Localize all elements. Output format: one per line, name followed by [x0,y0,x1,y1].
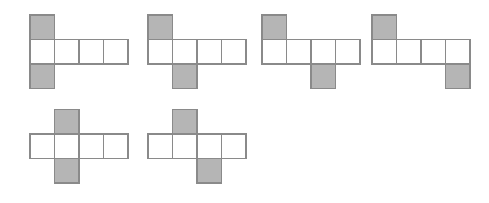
net-cell-top [55,110,80,135]
net-cell-row-0 [262,40,287,65]
net-cell-row-3 [336,40,361,65]
net-cell-row-0 [30,40,55,65]
net-cell-bottom [311,64,336,89]
net-cell-bottom [30,64,55,89]
net-cell-row-1 [397,40,422,65]
net-cell-row-1 [55,134,80,159]
net-cell-row-2 [421,40,446,65]
net-cell-row-3 [222,40,247,65]
cube-nets-figure [0,0,489,203]
net-cell-bottom [197,159,222,184]
net-cell-row-2 [311,40,336,65]
net-cell-row-1 [287,40,312,65]
net-cell-row-0 [30,134,55,159]
net-cell-row-0 [148,134,173,159]
net-cell-row-2 [79,40,104,65]
net-cell-row-2 [79,134,104,159]
net-cell-row-0 [148,40,173,65]
net-cell-top [372,15,397,40]
net-cell-top [148,15,173,40]
net-cell-row-1 [173,134,198,159]
net-cell-row-1 [55,40,80,65]
net-cell-row-3 [104,40,129,65]
net-cell-top [173,110,198,135]
net-cell-bottom [173,64,198,89]
net-cell-row-0 [372,40,397,65]
net-cell-row-2 [197,134,222,159]
net-cell-bottom [446,64,471,89]
net-cell-top [30,15,55,40]
net-cell-row-3 [222,134,247,159]
net-cell-row-1 [173,40,198,65]
net-cell-top [262,15,287,40]
net-cell-row-2 [197,40,222,65]
net-cell-bottom [55,159,80,184]
net-cell-row-3 [446,40,471,65]
net-cell-row-3 [104,134,129,159]
